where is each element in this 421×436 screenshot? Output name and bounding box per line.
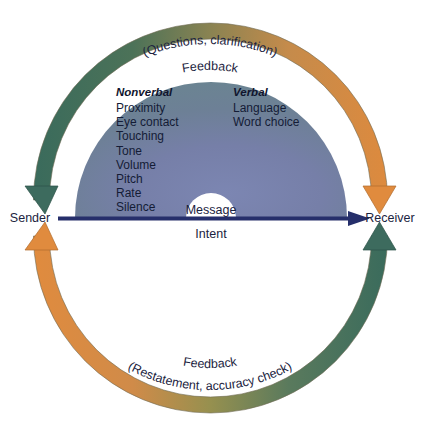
top-arc-inner-label: Feedback [181, 59, 240, 76]
cue-item: Word choice [233, 115, 300, 129]
intent-label: Intent [195, 227, 227, 241]
cue-item: Language [233, 101, 287, 115]
cue-column-heading: Nonverbal [116, 86, 173, 98]
top-arc-arrowhead-left [25, 186, 58, 214]
cue-item: Touching [116, 129, 164, 143]
cue-column-heading: Verbal [233, 86, 269, 98]
bottom-arc-arrowhead-left [25, 222, 58, 250]
message-label: Message [186, 203, 237, 217]
receiver-label: Receiver [365, 211, 414, 225]
bottom-arc-arrowhead-right [363, 222, 396, 250]
sender-label: Sender [10, 211, 50, 225]
cue-item: Pitch [116, 172, 143, 186]
cue-item: Tone [116, 144, 142, 158]
communication-diagram: (Questions, clarification) Feedback Feed… [0, 0, 421, 436]
cue-item: Eye contact [116, 115, 179, 129]
top-arc-arrowhead-right [363, 186, 396, 214]
cue-item: Silence [116, 200, 156, 214]
bottom-arc-inner-label: Feedback [182, 355, 238, 371]
cue-item: Volume [116, 158, 156, 172]
cue-item: Rate [116, 186, 142, 200]
cue-item: Proximity [116, 101, 165, 115]
